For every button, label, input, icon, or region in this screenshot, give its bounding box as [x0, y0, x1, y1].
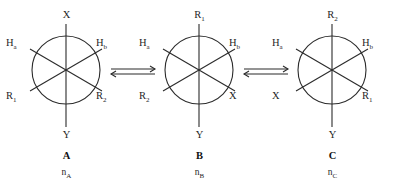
substituent-label-upper-right: Hb	[362, 38, 373, 51]
substituent-label-top: X	[63, 10, 71, 23]
substituent-label-bottom: Y	[329, 130, 337, 143]
substituent-label-upper-left: Ha	[139, 38, 150, 51]
newman-skeleton-c	[282, 12, 382, 127]
structure-name-b: B	[196, 150, 203, 161]
structure-population-c: nC	[328, 167, 337, 180]
structure-name-c: C	[329, 150, 337, 161]
structure-population-a: nA	[62, 167, 72, 180]
newman-skeleton-a	[16, 12, 116, 127]
substituent-label-bottom: Y	[196, 130, 204, 143]
newman-structure-c: R2 Ha Hb X R1 Y C nC	[266, 0, 399, 185]
substituent-label-lower-right: X	[229, 91, 237, 104]
substituent-label-lower-left: R2	[139, 91, 150, 104]
substituent-label-upper-left: Ha	[6, 38, 17, 51]
substituent-label-lower-right: R1	[362, 91, 373, 104]
substituent-label-lower-right: R2	[96, 91, 107, 104]
substituent-label-lower-left: X	[272, 91, 280, 104]
structure-population-b: nB	[195, 167, 204, 180]
newman-projection-diagram: X Ha Hb R1 R2 Y A nA R1 Ha Hb R2 X	[0, 0, 399, 185]
substituent-label-top: R2	[327, 10, 338, 23]
substituent-label-upper-right: Hb	[229, 38, 240, 51]
substituent-label-upper-left: Ha	[272, 38, 283, 51]
substituent-label-upper-right: Hb	[96, 38, 107, 51]
newman-skeleton-b	[149, 12, 249, 127]
structure-name-a: A	[63, 150, 71, 161]
newman-structure-a: X Ha Hb R1 R2 Y A nA	[0, 0, 133, 185]
substituent-label-lower-left: R1	[6, 91, 17, 104]
newman-structure-b: R1 Ha Hb R2 X Y B nB	[133, 0, 266, 185]
substituent-label-bottom: Y	[63, 130, 71, 143]
substituent-label-top: R1	[194, 10, 205, 23]
